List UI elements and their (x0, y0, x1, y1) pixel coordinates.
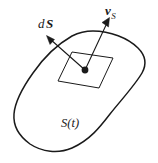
label-surface-region: S(t) (61, 117, 79, 130)
figure-drawing (0, 0, 158, 163)
figure-container: dS vS S(t) (0, 0, 158, 163)
blob-outline (14, 31, 145, 151)
dS-normal-arrowhead (47, 36, 55, 45)
surface-point-dot (82, 67, 89, 74)
label-surface-element-S: S (46, 16, 53, 31)
label-surface-velocity: vS (105, 4, 116, 21)
label-surface-element-d: d (38, 16, 45, 31)
label-surface-element: dS (38, 17, 53, 30)
label-surface-velocity-v: v (105, 3, 111, 18)
label-surface-velocity-subscript: S (111, 11, 116, 21)
dS-normal-arrow-shaft (50, 39, 85, 70)
vS-velocity-arrow-shaft (85, 23, 107, 70)
